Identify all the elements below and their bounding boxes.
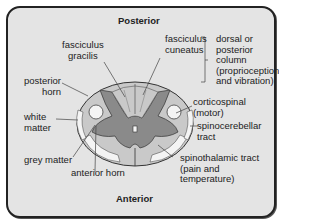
grey-matter-label: grey matter — [24, 155, 72, 166]
corticospinal-label: corticospinal (motor) — [193, 97, 246, 118]
fasciculus-gracilis-label: fasciculus gracilis — [62, 40, 104, 61]
spinocerebellar-label: spinocerebellar tract — [197, 121, 261, 142]
spinothalamic-label: spinothalamic tract (pain and temperatur… — [180, 153, 259, 185]
posterior-horn-label: posterior horn — [24, 76, 61, 97]
corticospinal-tract-left — [89, 105, 103, 119]
anterior-label: Anterior — [116, 194, 153, 205]
dorsal-column-label: dorsal or posterior column (propriocepti… — [216, 34, 279, 87]
fasciculus-cuneatus-label: fasciculus cuneatus — [165, 34, 207, 55]
posterior-label: Posterior — [118, 16, 160, 27]
white-matter-label: white matter — [24, 112, 51, 133]
anterior-horn-label: anterior horn — [71, 168, 125, 179]
